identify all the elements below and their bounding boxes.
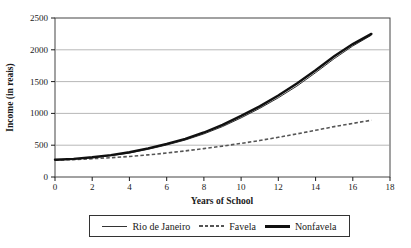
x-tick-label: 2 [90, 182, 95, 192]
y-tick-label: 1000 [30, 108, 49, 118]
y-tick-label: 0 [44, 172, 49, 182]
series-nonfavela-line [55, 34, 371, 160]
x-tick-label: 18 [386, 182, 396, 192]
x-tick-label: 10 [237, 182, 247, 192]
x-tick-label: 4 [127, 182, 132, 192]
legend-item-rio-de-janeiro: Rio de Janeiro [102, 221, 190, 232]
x-tick-labels: 0 2 4 6 8 10 12 14 16 18 [53, 182, 395, 192]
legend-item-nonfavela: Nonfavela [265, 221, 337, 232]
x-tick-label: 16 [348, 182, 358, 192]
thick-line-swatch-icon [265, 225, 290, 228]
x-tick-label: 8 [202, 182, 207, 192]
y-tick-label: 2000 [30, 45, 49, 55]
plot-border [55, 18, 390, 177]
income-vs-schooling-chart: 0 500 1000 1500 2000 2500 0 2 4 6 8 10 1… [0, 0, 411, 248]
legend-label: Favela [229, 221, 256, 232]
x-tick-label: 12 [274, 182, 283, 192]
y-tick-marks [51, 18, 55, 177]
series-favela-line [55, 120, 371, 160]
x-tick-label: 0 [53, 182, 58, 192]
x-tick-label: 6 [164, 182, 169, 192]
y-tick-label: 2500 [30, 13, 49, 23]
plot-svg: 0 500 1000 1500 2000 2500 0 2 4 6 8 10 1… [0, 0, 411, 214]
series-rio-de-janeiro-line [55, 35, 371, 160]
y-tick-labels: 0 500 1000 1500 2000 2500 [30, 13, 49, 182]
x-tick-label: 14 [311, 182, 321, 192]
y-tick-label: 500 [35, 140, 49, 150]
x-axis-title: Years of School [191, 196, 254, 206]
legend-label: Nonfavela [295, 221, 337, 232]
legend: Rio de Janeiro Favela Nonfavela [89, 215, 350, 237]
y-axis-title: Income (in reais) [5, 63, 16, 131]
gridlines [55, 50, 390, 145]
dashed-line-swatch-icon [199, 225, 224, 227]
legend-label: Rio de Janeiro [132, 221, 190, 232]
x-tick-marks [55, 177, 390, 181]
thin-line-swatch-icon [102, 226, 127, 227]
y-tick-label: 1500 [30, 77, 49, 87]
legend-item-favela: Favela [199, 221, 256, 232]
